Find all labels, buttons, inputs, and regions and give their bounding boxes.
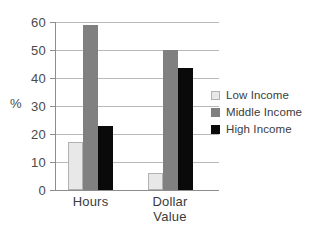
y-axis-tick-label: 30 (16, 99, 46, 114)
legend-item[interactable]: Low Income (211, 88, 302, 102)
bar (83, 25, 98, 190)
bar (148, 173, 163, 190)
legend-swatch-icon (211, 108, 220, 117)
x-axis-line (55, 190, 219, 191)
legend-swatch-icon (211, 125, 220, 134)
x-axis-category-label: Hours (51, 194, 131, 209)
y-axis-tick-label: 10 (16, 155, 46, 170)
y-axis-tick-label: 60 (16, 15, 46, 30)
legend-item-label: High Income (226, 123, 292, 135)
y-axis-tick-mark (50, 106, 55, 107)
y-axis-tick-mark (50, 190, 55, 191)
plot-area (56, 22, 219, 190)
y-axis-tick-mark (50, 50, 55, 51)
legend-item[interactable]: High Income (211, 122, 302, 136)
y-axis-tick-label: 40 (16, 71, 46, 86)
y-axis-tick-mark (50, 22, 55, 23)
bar (163, 50, 178, 190)
y-axis-tick-mark (50, 78, 55, 79)
y-axis-tick-mark (50, 134, 55, 135)
x-axis-category-label-line: Dollar (130, 194, 210, 209)
bar (68, 142, 83, 190)
y-axis-tick-label: 0 (16, 183, 46, 198)
legend-swatch-icon (211, 91, 220, 100)
bar (98, 126, 113, 190)
legend-item-label: Middle Income (226, 106, 302, 118)
y-axis-tick-mark (50, 162, 55, 163)
x-axis-category-label-line: Value (130, 209, 210, 224)
y-axis-tick-label: 50 (16, 43, 46, 58)
bar-group (56, 22, 138, 190)
bar (178, 68, 193, 190)
legend-item[interactable]: Middle Income (211, 105, 302, 119)
grouped-bar-chart: % 6050403020100 HoursDollarValue Low Inc… (0, 0, 320, 231)
chart-legend: Low IncomeMiddle IncomeHigh Income (211, 88, 302, 139)
x-axis-category-label: DollarValue (130, 194, 210, 225)
y-axis-tick-label: 20 (16, 127, 46, 142)
y-axis-tick-labels: 6050403020100 (12, 0, 46, 231)
x-axis-category-label-line: Hours (51, 194, 131, 209)
legend-item-label: Low Income (226, 89, 289, 101)
bar-group (138, 22, 220, 190)
